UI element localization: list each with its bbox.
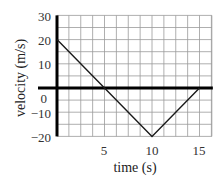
x-tick-10: 10 <box>146 143 159 158</box>
y-tick-minus-20: −20 <box>31 130 51 145</box>
x-tick-15: 15 <box>193 143 206 158</box>
y-axis-label: velocity (m/s) <box>13 39 29 117</box>
x-axis-label: time (s) <box>113 160 156 176</box>
y-tick-10: 10 <box>38 57 51 72</box>
y-tick-0: 0 <box>41 91 48 106</box>
y-tick-20: 20 <box>38 33 51 48</box>
y-tick-30: 30 <box>38 9 51 24</box>
y-tick-minus-10: −10 <box>31 106 51 121</box>
velocity-time-chart: 30 20 10 0 −10 −20 5 10 15 time (s) velo… <box>0 0 222 180</box>
x-tick-5: 5 <box>101 143 108 158</box>
